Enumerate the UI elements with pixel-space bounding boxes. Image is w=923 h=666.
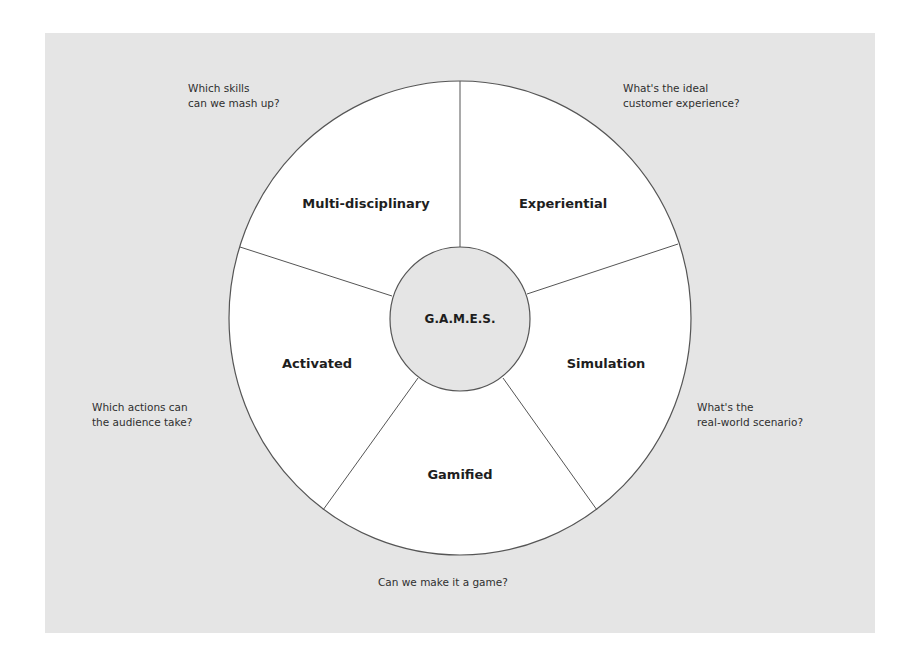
question-multi-disciplinary: Which skills can we mash up? (188, 81, 280, 111)
question-line-1: What's the ideal (623, 81, 740, 96)
center-hub-label: G.A.M.E.S. (425, 312, 496, 326)
question-line-1: What's the (697, 400, 803, 415)
question-line-2: can we mash up? (188, 96, 280, 111)
question-line-1: Which skills (188, 81, 280, 96)
segment-label-experiential: Experiential (519, 196, 607, 211)
question-line-2: customer experience? (623, 96, 740, 111)
question-line-1: Can we make it a game? (378, 575, 508, 590)
segment-label-activated: Activated (282, 356, 352, 371)
question-line-2: real-world scenario? (697, 415, 803, 430)
question-experiential: What's the ideal customer experience? (623, 81, 740, 111)
question-line-1: Which actions can (92, 400, 192, 415)
question-activated: Which actions can the audience take? (92, 400, 192, 430)
segment-label-gamified: Gamified (427, 467, 492, 482)
question-line-2: the audience take? (92, 415, 192, 430)
segment-label-multi-disciplinary: Multi-disciplinary (302, 196, 430, 211)
question-gamified: Can we make it a game? (378, 575, 508, 590)
segment-label-simulation: Simulation (567, 356, 646, 371)
games-wheel-diagram (0, 0, 923, 666)
question-simulation: What's the real-world scenario? (697, 400, 803, 430)
